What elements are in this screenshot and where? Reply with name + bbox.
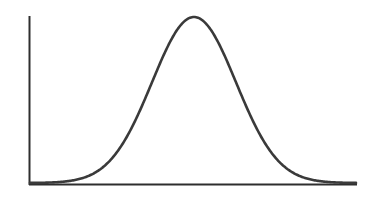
- bell-curve-chart: [0, 0, 375, 204]
- normal-distribution-curve: [30, 17, 356, 183]
